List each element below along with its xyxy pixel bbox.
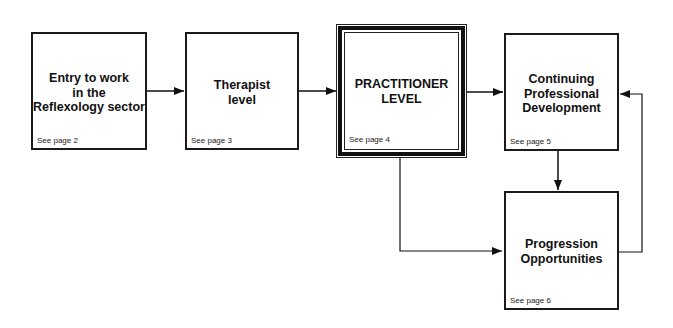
box-cpd-ref: See page 5 xyxy=(510,137,551,146)
box-therapist: Therapist level See page 3 xyxy=(185,32,299,150)
box-progression-title: Progression Opportunities xyxy=(506,237,617,266)
box-practitioner-title: PRACTITIONER LEVEL xyxy=(345,77,458,106)
box-practitioner-inner: PRACTITIONER LEVEL See page 4 xyxy=(344,32,459,150)
box-practitioner: PRACTITIONER LEVEL See page 4 xyxy=(336,24,467,158)
arrow-practitioner-to-progression xyxy=(400,157,502,251)
box-progression: Progression Opportunities See page 6 xyxy=(504,191,619,310)
box-entry-title: Entry to work in the Reflexology sector xyxy=(33,71,145,115)
box-cpd: Continuing Professional Development See … xyxy=(504,33,619,151)
box-entry-ref: See page 2 xyxy=(37,136,78,145)
box-therapist-title: Therapist level xyxy=(187,78,297,107)
arrow-progression-to-cpd xyxy=(618,94,642,252)
box-entry: Entry to work in the Reflexology sector … xyxy=(31,32,147,150)
box-progression-ref: See page 6 xyxy=(510,296,551,305)
box-therapist-ref: See page 3 xyxy=(191,136,232,145)
box-practitioner-ref: See page 4 xyxy=(349,135,390,144)
box-cpd-title: Continuing Professional Development xyxy=(506,72,617,116)
